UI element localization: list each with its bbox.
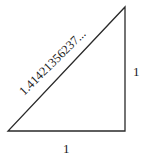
horizontal-leg-label: 1 <box>63 141 70 156</box>
right-triangle <box>8 7 125 131</box>
triangle-diagram: 1.41421356237... 1 1 <box>0 0 146 158</box>
hypotenuse-label: 1.41421356237... <box>16 27 88 98</box>
vertical-leg-label: 1 <box>133 64 140 79</box>
